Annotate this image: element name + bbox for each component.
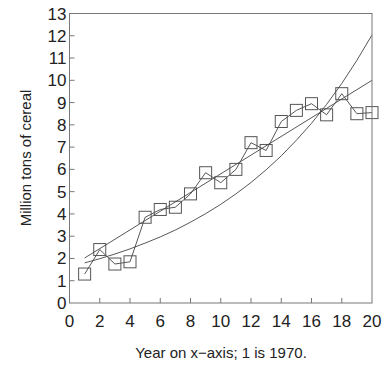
y-tick-label: 12	[48, 27, 67, 46]
y-tick-label: 11	[49, 49, 67, 68]
plot-area	[79, 35, 378, 280]
plot-frame	[70, 14, 373, 304]
y-tick-label: 3	[57, 227, 66, 246]
x-tick-label: 16	[302, 312, 321, 331]
x-tick-label: 12	[242, 312, 261, 331]
x-tick-label: 14	[272, 312, 291, 331]
tick-labels: 02468101214161820012345678910111213	[48, 5, 382, 332]
x-tick-label: 4	[125, 312, 134, 331]
x-tick-label: 2	[95, 312, 104, 331]
y-tick-label: 7	[57, 138, 66, 157]
axis-ticks	[70, 36, 342, 303]
x-tick-label: 8	[186, 312, 195, 331]
y-tick-label: 4	[57, 205, 66, 224]
cereal-chart: Million tons of cereal Year on x−axis; 1…	[0, 0, 390, 375]
y-tick-label: 5	[57, 183, 66, 202]
y-tick-label: 2	[57, 249, 66, 268]
x-tick-label: 6	[156, 312, 165, 331]
y-axis-label: Million tons of cereal	[17, 90, 34, 227]
x-tick-label: 20	[363, 312, 382, 331]
x-tick-label: 10	[211, 312, 230, 331]
x-tick-label: 18	[332, 312, 351, 331]
x-axis-label: Year on x−axis; 1 is 1970.	[135, 344, 307, 361]
x-tick-label: 0	[65, 312, 74, 331]
linear-trend-line	[85, 80, 372, 258]
y-tick-label: 1	[57, 272, 66, 291]
y-tick-label: 10	[48, 71, 67, 90]
y-tick-label: 9	[57, 94, 66, 113]
y-axis-title: Million tons of cereal	[17, 90, 34, 227]
y-tick-label: 0	[57, 294, 66, 313]
y-tick-label: 8	[57, 116, 66, 135]
exponential-trend-line	[85, 35, 372, 263]
y-tick-label: 6	[57, 160, 66, 179]
y-tick-label: 13	[48, 5, 67, 24]
